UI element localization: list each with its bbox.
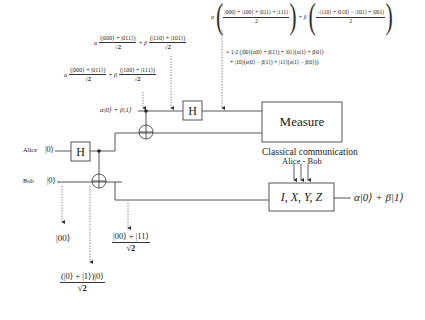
- bob-label: Bob: [23, 178, 34, 185]
- regrouped-line-1: = 1/2 (|00⟩(α|0⟩ + β|1⟩) + |01⟩(α|1⟩ + β…: [226, 50, 323, 56]
- cnot1-control: [97, 149, 101, 153]
- alice-initial-state: |0⟩: [45, 146, 54, 154]
- bob-initial-state: |0⟩: [47, 177, 56, 185]
- bell-state: |00⟩ + |11⟩ √2: [112, 232, 150, 253]
- input-state: α|0⟩ + β|1⟩: [100, 107, 132, 114]
- classical-direction: Alice - Bob: [282, 157, 322, 166]
- state-00: |00⟩: [56, 234, 70, 243]
- state-superposition: (|0⟩ + |1⟩)|0⟩ √2: [60, 272, 105, 293]
- h-gate-input-label: H: [183, 104, 202, 119]
- cnot2-control: [144, 109, 148, 113]
- alice-label: Alice: [23, 147, 37, 154]
- measure-label: Measure: [262, 114, 342, 130]
- h-gate-alice-label: H: [71, 145, 90, 160]
- wire-alice-routed: [115, 133, 262, 151]
- state-after-h: α ( |000⟩ + |100⟩ + |011⟩ + |111⟩ 2 ) + …: [209, 6, 393, 28]
- correction-label: I, X, Y, Z: [269, 190, 334, 205]
- regrouped-line-2: + |10⟩(α|0⟩ − β|1⟩) + |11⟩(α|1⟩ − β|0⟩)): [230, 60, 318, 66]
- wire-bob-routed: [115, 182, 262, 200]
- state-after-cnot2: α (|000⟩ + |011⟩) √2 + β (|100⟩ + |111⟩)…: [62, 67, 156, 83]
- state-after-cnot3: α (|000⟩ + |011⟩) √2 + β (|110⟩ + |101⟩)…: [92, 35, 186, 51]
- output-state: α|0⟩ + β|1⟩: [354, 192, 404, 203]
